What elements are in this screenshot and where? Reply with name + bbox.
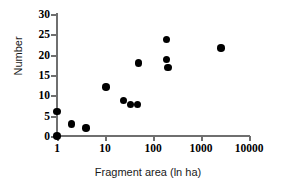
data-point	[82, 124, 90, 132]
x-axis-tick-label: 10	[99, 142, 111, 154]
data-point	[163, 56, 171, 64]
x-axis-tick-label: 10000	[235, 142, 264, 154]
data-point	[217, 44, 225, 52]
data-point	[53, 132, 61, 140]
x-axis-tick-label: 1	[54, 142, 60, 154]
y-axis-tick	[51, 95, 56, 97]
data-point	[135, 59, 143, 67]
data-point	[68, 120, 76, 128]
x-axis-tick-label: 1000	[190, 142, 213, 154]
y-axis-tick-label: 20	[39, 49, 51, 61]
y-axis-tick	[51, 75, 56, 77]
data-point	[163, 36, 171, 44]
x-axis-title: Fragment area (ln ha)	[0, 166, 296, 178]
y-axis-tick-label: 25	[39, 28, 51, 40]
plot-area: 051015202530110100100010000	[57, 14, 249, 136]
x-axis-tick	[105, 136, 107, 141]
y-axis-title: Number	[12, 11, 24, 101]
data-point	[102, 83, 110, 91]
y-axis-tick-label: 30	[39, 8, 51, 20]
y-axis-tick	[51, 14, 56, 16]
scatter-chart: 051015202530110100100010000 Fragment are…	[0, 0, 296, 193]
x-axis-tick	[153, 136, 155, 141]
x-axis-tick	[249, 136, 251, 141]
x-axis-tick	[201, 136, 203, 141]
data-point	[120, 97, 128, 105]
y-axis-tick-label: 0	[44, 130, 50, 142]
y-axis-tick	[51, 55, 56, 57]
x-axis-tick-label: 100	[144, 142, 161, 154]
data-point	[164, 64, 172, 72]
y-axis-tick-label: 10	[39, 89, 51, 101]
y-axis-tick	[51, 34, 56, 36]
data-point	[53, 108, 61, 116]
y-axis-tick-label: 5	[44, 110, 50, 122]
data-point	[134, 101, 142, 109]
y-axis-tick	[51, 116, 56, 118]
y-axis-tick-label: 15	[39, 69, 51, 81]
